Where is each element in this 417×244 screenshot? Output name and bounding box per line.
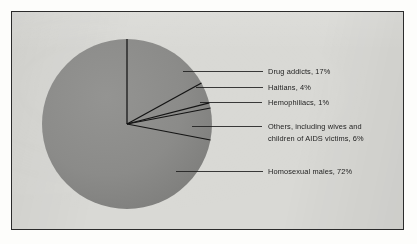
label-drug-addicts: Drug addicts, 17% bbox=[268, 67, 331, 76]
label-others-line2: children of AIDS victims, 6% bbox=[268, 134, 364, 143]
pie-chart-figure: Drug addicts, 17% Haitians, 4% Hemophili… bbox=[0, 0, 417, 244]
label-homosexual-males: Homosexual males, 72% bbox=[268, 167, 353, 176]
label-haitians: Haitians, 4% bbox=[268, 83, 311, 92]
label-others-line1: Others, including wives and bbox=[268, 122, 362, 131]
label-hemophiliacs: Hemophiliacs, 1% bbox=[268, 98, 329, 107]
pie-chart-svg: Drug addicts, 17% Haitians, 4% Hemophili… bbox=[0, 0, 417, 244]
